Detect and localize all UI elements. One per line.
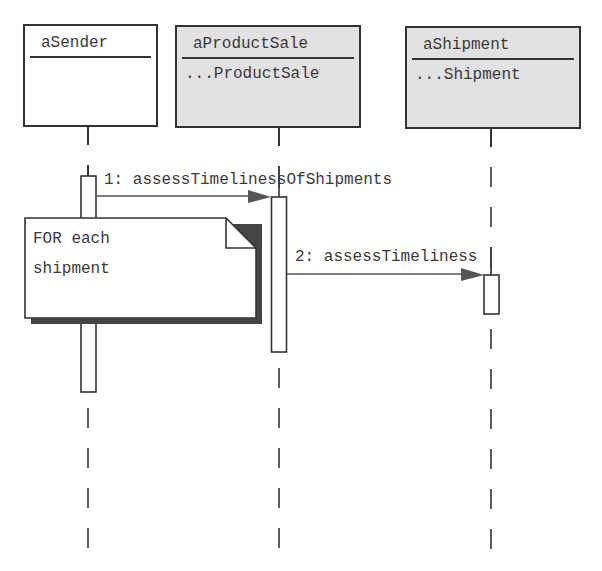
note-text-line-1: FOR each bbox=[33, 225, 110, 253]
message-arrow-2 bbox=[287, 268, 484, 281]
object-asender: aSender bbox=[23, 24, 158, 127]
activation-aproductsale bbox=[272, 197, 287, 352]
object-name-underline bbox=[412, 58, 574, 60]
object-class: ...Shipment bbox=[415, 66, 521, 84]
object-name: aSender bbox=[25, 34, 156, 52]
object-aproductsale: aProductSale ...ProductSale bbox=[175, 25, 361, 128]
note-text-line-2: shipment bbox=[33, 255, 110, 283]
object-ashipment: aShipment ...Shipment bbox=[405, 26, 581, 129]
object-name-underline bbox=[30, 56, 151, 58]
activation-ashipment bbox=[484, 275, 499, 314]
object-name-underline bbox=[182, 57, 354, 59]
message-label-2: 2: assessTimeliness bbox=[295, 248, 477, 266]
object-name: aProductSale bbox=[177, 35, 359, 53]
object-class: ...ProductSale bbox=[185, 65, 319, 83]
message-arrow-1 bbox=[96, 190, 271, 203]
message-label-1: 1: assessTimelinessOfShipments bbox=[104, 171, 392, 189]
object-name: aShipment bbox=[407, 36, 579, 54]
